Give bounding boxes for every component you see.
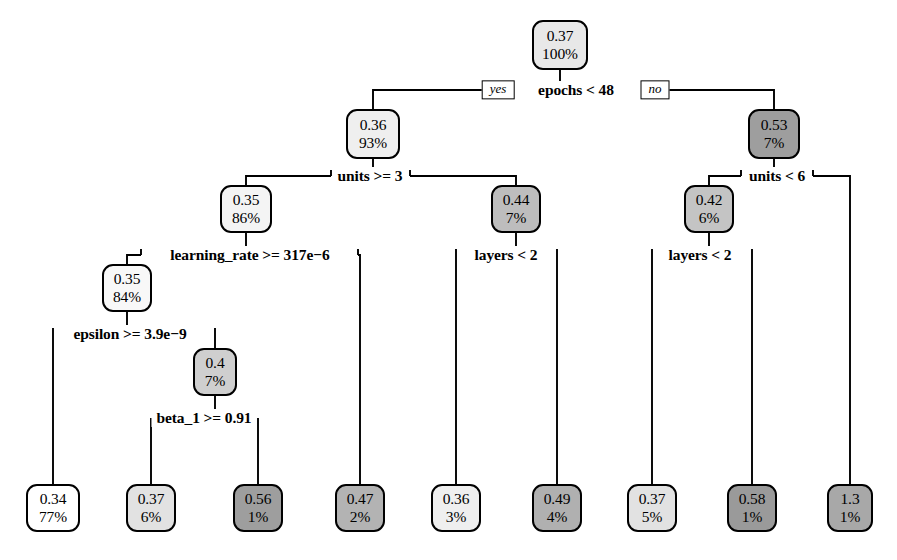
node-value: 0.44 xyxy=(503,192,530,208)
node-percent: 77% xyxy=(39,509,67,525)
split-label-s3: learning_rate >= 317e−6 xyxy=(165,246,334,264)
node-percent: 3% xyxy=(446,509,466,525)
node-value: 0.4 xyxy=(205,355,224,371)
tree-node-n13: 0.494% xyxy=(532,484,582,532)
node-percent: 4% xyxy=(547,509,567,525)
split-label-s4: epsilon >= 3.9e−9 xyxy=(68,325,191,343)
tree-edge xyxy=(813,176,850,484)
node-percent: 84% xyxy=(113,289,141,305)
tree-node-n9: 0.376% xyxy=(126,484,176,532)
branch-label-yes: yes xyxy=(482,80,515,99)
node-value: 0.37 xyxy=(138,491,165,507)
tree-node-n12: 0.363% xyxy=(431,484,481,532)
node-value: 0.49 xyxy=(544,491,571,507)
node-value: 0.35 xyxy=(233,192,260,208)
node-percent: 5% xyxy=(642,509,662,525)
node-percent: 7% xyxy=(506,210,526,226)
node-percent: 100% xyxy=(542,46,578,62)
tree-edge xyxy=(373,90,498,109)
node-percent: 86% xyxy=(232,210,260,226)
split-label-s2: units < 6 xyxy=(744,167,810,185)
tree-node-n3: 0.3586% xyxy=(220,185,272,233)
tree-node-n11: 0.472% xyxy=(335,484,385,532)
node-value: 0.37 xyxy=(547,28,574,44)
tree-node-n10: 0.561% xyxy=(233,484,283,532)
node-value: 0.36 xyxy=(443,491,470,507)
tree-node-n4: 0.447% xyxy=(491,185,541,233)
split-label-s6: layers < 2 xyxy=(470,246,543,264)
node-percent: 6% xyxy=(141,509,161,525)
node-value: 0.47 xyxy=(347,491,374,507)
node-percent: 6% xyxy=(699,210,719,226)
tree-node-n15: 0.581% xyxy=(727,484,777,532)
node-value: 0.42 xyxy=(696,192,723,208)
node-value: 1.3 xyxy=(840,491,859,507)
node-value: 0.34 xyxy=(40,491,67,507)
split-label-s0: epochs < 48 xyxy=(533,81,619,99)
node-value: 0.56 xyxy=(245,491,272,507)
tree-edge xyxy=(358,255,360,484)
split-label-s1: units >= 3 xyxy=(333,167,408,185)
split-label-s5: beta_1 >= 0.91 xyxy=(151,409,256,427)
tree-node-n0: 0.37100% xyxy=(532,20,588,70)
branch-label-no: no xyxy=(641,80,670,99)
tree-node-n2: 0.537% xyxy=(748,109,800,159)
tree-node-n5: 0.426% xyxy=(684,185,734,233)
tree-node-n16: 1.31% xyxy=(827,484,873,532)
tree-edge xyxy=(410,176,516,185)
node-value: 0.35 xyxy=(114,271,141,287)
node-value: 0.37 xyxy=(639,491,666,507)
node-value: 0.58 xyxy=(739,491,766,507)
node-percent: 93% xyxy=(359,135,387,151)
decision-tree-figure: epochs < 48units >= 3units < 6learning_r… xyxy=(0,0,897,560)
tree-edge xyxy=(127,255,141,264)
node-value: 0.36 xyxy=(360,117,387,133)
node-percent: 2% xyxy=(350,509,370,525)
tree-node-n7: 0.47% xyxy=(193,348,237,396)
node-percent: 1% xyxy=(742,509,762,525)
node-percent: 7% xyxy=(205,373,225,389)
tree-edge xyxy=(655,90,774,109)
tree-node-n14: 0.375% xyxy=(627,484,677,532)
node-value: 0.53 xyxy=(761,117,788,133)
tree-edge xyxy=(709,176,741,185)
tree-node-n8: 0.3477% xyxy=(26,484,80,532)
tree-edge xyxy=(246,176,331,185)
tree-node-n6: 0.3584% xyxy=(102,264,152,312)
node-percent: 1% xyxy=(840,509,860,525)
split-label-s7: layers < 2 xyxy=(664,246,737,264)
node-percent: 7% xyxy=(764,135,784,151)
tree-node-n1: 0.3693% xyxy=(346,109,400,159)
node-percent: 1% xyxy=(248,509,268,525)
